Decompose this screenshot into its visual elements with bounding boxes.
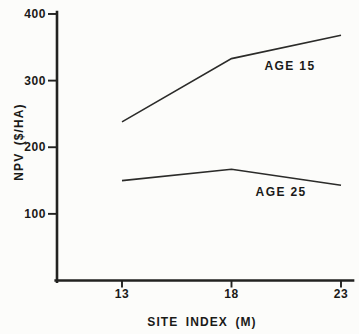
y-tick-label: 300 xyxy=(24,74,46,88)
x-tick-label: 18 xyxy=(224,287,239,301)
x-axis-title: SITE INDEX (M) xyxy=(147,315,256,329)
x-tick-label: 23 xyxy=(334,287,349,301)
y-tick-label: 100 xyxy=(24,207,46,221)
series-label-age-25: AGE 25 xyxy=(256,185,307,199)
y-tick-label: 400 xyxy=(24,7,46,21)
x-tick-label: 13 xyxy=(115,287,130,301)
npv-vs-site-index-chart: 100200300400131823 AGE 15AGE 25 SITE IND… xyxy=(0,0,359,334)
y-axis-title: NPV ($/HA) xyxy=(12,103,26,180)
axes: 100200300400131823 xyxy=(24,7,353,301)
data-series xyxy=(122,35,341,185)
series-line-age-25 xyxy=(122,169,341,185)
y-tick-label: 200 xyxy=(24,140,46,154)
chart-canvas: 100200300400131823 AGE 15AGE 25 SITE IND… xyxy=(0,0,359,334)
series-label-age-15: AGE 15 xyxy=(264,59,315,73)
series-line-age-15 xyxy=(122,35,341,122)
